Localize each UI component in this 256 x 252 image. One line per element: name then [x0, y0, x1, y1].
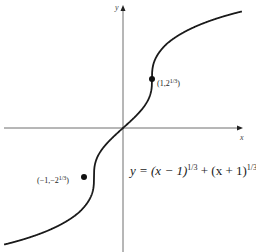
point-lower [81, 174, 87, 180]
point-lower-label: (−1,−21/3) [37, 175, 69, 185]
x-axis-arrow-icon [237, 126, 243, 131]
equation-label: y = (x − 1)1/3 + (x + 1)1/3 [128, 163, 256, 178]
function-plot: x y (1,21/3) (−1,−21/3) y = (x − 1)1/3 +… [0, 0, 256, 252]
y-axis-arrow-icon [121, 5, 126, 11]
point-upper [149, 76, 155, 82]
point-upper-label: (1,21/3) [157, 78, 180, 88]
x-axis-label: x [239, 133, 244, 142]
y-axis-label: y [114, 3, 119, 12]
